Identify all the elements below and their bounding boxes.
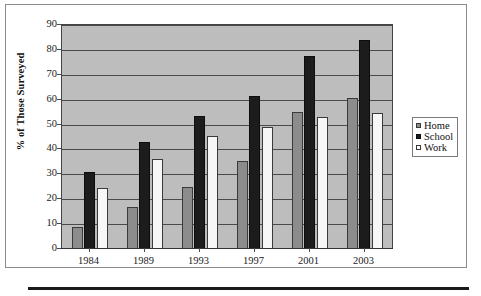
work-swatch [416,145,421,150]
bar-home-1993 [182,187,193,249]
legend-label: Work [424,142,447,153]
bar-group [282,25,337,249]
x-tick-label-1989: 1989 [116,255,172,266]
bar-school-2001 [304,56,315,249]
y-tick-label: 20 [31,193,57,203]
bar-work-1993 [207,136,218,249]
bar-group [172,25,227,249]
bar-work-1997 [262,127,273,249]
legend-label: School [424,131,453,142]
bar-home-2001 [292,112,303,249]
x-tick-mark [364,248,365,252]
bar-work-2001 [317,117,328,249]
x-tick-label-1997: 1997 [226,255,282,266]
y-axis-ticks: 0102030405060708090 [26,24,57,249]
x-tick-label-1993: 1993 [171,255,227,266]
x-tick-mark [199,248,200,252]
bar-home-1984 [72,227,83,249]
bar-group [337,25,392,249]
y-tick-label: 70 [31,69,57,79]
y-tick-label: 90 [31,19,57,29]
legend-item-work: Work [416,142,453,153]
y-tick-label: 30 [31,168,57,178]
home-swatch [416,123,421,128]
legend-label: Home [424,120,450,131]
x-tick-mark [254,248,255,252]
bar-home-2003 [347,98,358,249]
x-tick-label-2001: 2001 [281,255,337,266]
legend-item-home: Home [416,120,453,131]
x-axis-labels: 198419891993199720012003 [61,252,393,270]
bar-work-2003 [372,113,383,249]
x-tick-mark [144,248,145,252]
school-swatch [416,134,421,139]
bar-school-1997 [249,96,260,249]
y-tick-label: 40 [31,143,57,153]
bar-work-1989 [152,159,163,249]
bottom-rule [28,287,469,290]
bar-home-1997 [237,161,248,249]
x-tick-mark [309,248,310,252]
bar-group [227,25,282,249]
bar-group [62,25,117,249]
chart-legend: HomeSchoolWork [412,117,458,157]
x-tick-label-2003: 2003 [336,255,392,266]
bar-home-1989 [127,207,138,249]
chart-figure: % of Those Surveyed 0102030405060708090 … [0,0,481,296]
legend-item-school: School [416,131,453,142]
y-tick-label: 10 [31,218,57,228]
bar-work-1984 [97,188,108,249]
x-axis-line [61,248,393,249]
y-tick-label: 0 [31,243,57,253]
bar-school-1984 [84,172,95,249]
x-tick-label-1984: 1984 [61,255,117,266]
bar-school-2003 [359,40,370,249]
bar-school-1989 [139,142,150,249]
y-axis-title: % of Those Surveyed [15,22,26,182]
x-tick-mark [89,248,90,252]
y-tick-label: 60 [31,94,57,104]
bar-group [117,25,172,249]
y-tick-label: 80 [31,44,57,54]
bar-school-1993 [194,116,205,249]
y-tick-label: 50 [31,119,57,129]
bars-layer [62,25,392,249]
